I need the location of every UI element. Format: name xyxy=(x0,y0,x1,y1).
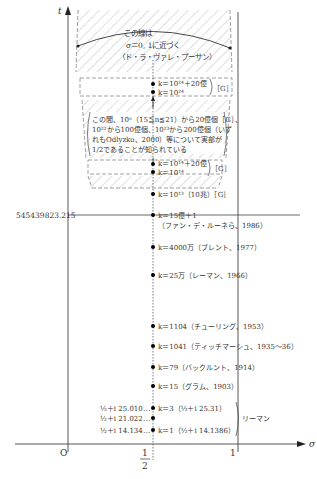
half-label-den: 2 xyxy=(142,461,148,471)
zero-label: k＝10¹³（10兆）［G］ xyxy=(158,190,230,199)
top-note-line2: σ＝0, 1に近づく xyxy=(126,40,180,50)
riemann-zeros-diagram: t σ O 1 2 1 545439823.215 この線は σ＝0, 1に近づ… xyxy=(0,0,317,479)
zero-label: k＝1（½＋i 14.1386） xyxy=(158,427,235,435)
zero-label: k＝79（バックルント、1914） xyxy=(158,364,259,372)
t-marker-value: 545439823.215 xyxy=(16,211,76,220)
zero-label: k＝10²⁴ xyxy=(158,89,184,97)
t-axis-label: t xyxy=(58,6,62,16)
g-box-1 xyxy=(80,78,232,96)
origin-label: O xyxy=(60,448,67,458)
half-label-num: 1 xyxy=(142,448,148,458)
zero-label: k＝15億＋1 xyxy=(158,211,197,220)
middle-note-line3: れもOdlyzko、2000）等について実部が xyxy=(92,135,222,144)
g-tag: ［G］ xyxy=(211,165,231,173)
zero-label: k＝10²⁴＋20億 xyxy=(158,79,207,88)
middle-note-line4: 1/2であることが知られている xyxy=(92,145,187,154)
sigma-axis-arrow-icon xyxy=(297,441,306,447)
sigma-axis-label: σ xyxy=(309,439,316,449)
first-zero-label: ½＋i 21.022⋯ xyxy=(100,415,150,423)
zero-label: k＝4000万（ブレント、1977） xyxy=(158,243,261,252)
zero-label: k＝25万（レーマン、1966） xyxy=(158,272,252,280)
first-zero-label: ½＋i 14.134⋯ xyxy=(100,427,150,435)
hatched-region-lower xyxy=(88,176,222,188)
zero-label: k＝1104（チューリング、1953） xyxy=(158,322,268,331)
zero-label: k＝1041（ティッチマーシュ、1935〜36） xyxy=(158,343,298,351)
zero-label: k＝15（グラム、1903） xyxy=(158,382,238,391)
zero-label: （ファン・デ・ルーネら、1986） xyxy=(158,221,267,230)
t-axis-arrow-icon xyxy=(65,6,71,15)
zero-label: k＝10¹⁴＋20億 xyxy=(158,159,207,168)
zero-label: k＝10¹⁴ xyxy=(158,169,184,177)
zero-label: k＝3（½＋i 25.31） xyxy=(158,405,226,413)
riemann-label: リーマン xyxy=(242,415,270,423)
g-tag: ［G］ xyxy=(213,85,233,93)
first-zero-label: ½＋i 25.010⋯ xyxy=(100,405,150,413)
top-note-line1: この線は xyxy=(124,28,153,38)
middle-note-line2: 10²²から100億個、10²³から200億個（いず xyxy=(92,125,232,134)
top-note-line3: （ド・ラ・ヴァレ・プーサン） xyxy=(118,52,216,62)
one-label: 1 xyxy=(230,448,236,458)
middle-note-line1: この間、10ⁿ（15≦n≦21）から20億個［G］、 xyxy=(92,115,242,124)
